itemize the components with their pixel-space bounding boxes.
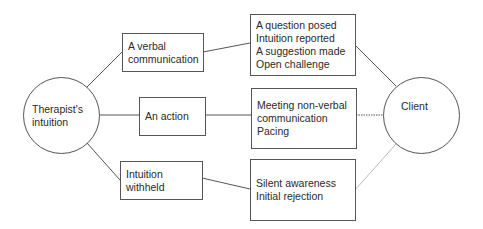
connector-withheld-client: [355, 144, 396, 190]
connector-withheld-outcomes: [202, 178, 250, 189]
therapist-intuition-label-line2: intuition: [32, 116, 83, 129]
outcome-item: Intuition reported: [256, 32, 355, 45]
outcome-item: Meeting non-verbal: [257, 99, 356, 112]
action-outcomes-box: Meeting non-verbal communication Pacing: [251, 88, 357, 149]
therapist-intuition-node: Therapist's intuition: [23, 77, 100, 154]
outcome-item: Pacing: [257, 125, 356, 138]
intuition-withheld-box: Intuition withheld: [120, 161, 203, 200]
verbal-communication-label-line1: A verbal: [128, 40, 203, 53]
client-node: Client: [383, 77, 460, 154]
outcome-item: A suggestion made: [256, 45, 355, 58]
outcome-item: Initial rejection: [256, 190, 355, 203]
therapist-intuition-label-line1: Therapist's: [32, 103, 83, 116]
connector-verbal-client: [355, 45, 396, 86]
outcome-item: communication: [257, 112, 356, 125]
action-box: An action: [139, 97, 206, 136]
client-label: Client: [401, 100, 428, 113]
connector-source-verbal: [87, 52, 122, 87]
connector-verbal-outcomes: [203, 43, 250, 52]
verbal-outcomes-box: A question posed Intuition reported A su…: [250, 14, 356, 76]
outcome-item: Silent awareness: [256, 177, 355, 190]
outcome-item: A question posed: [256, 19, 355, 32]
verbal-communication-box: A verbal communication: [122, 33, 204, 72]
intuition-withheld-label-line2: withheld: [126, 181, 202, 194]
connector-source-withheld: [87, 143, 120, 180]
intuition-withheld-label-line1: Intuition: [126, 168, 202, 181]
withheld-outcomes-box: Silent awareness Initial rejection: [250, 159, 356, 221]
verbal-communication-label-line2: communication: [128, 53, 203, 66]
action-label: An action: [145, 110, 205, 123]
outcome-item: Open challenge: [256, 58, 355, 71]
